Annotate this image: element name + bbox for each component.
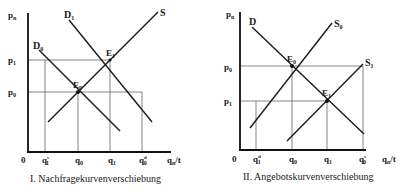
quantity-tick-q1: q1: [324, 154, 332, 165]
guide-lines: [240, 66, 363, 150]
supply-curve-s1: [287, 64, 363, 141]
axes: [27, 13, 171, 152]
price-tick-p0: p0: [224, 62, 232, 73]
curve-label-d1: D1: [64, 9, 74, 21]
price-tick-p1: p1: [8, 55, 16, 66]
price-tick-p0: p0: [8, 87, 16, 98]
equilibrium-label-e0: E0: [73, 80, 82, 91]
equilibrium-label-e0: E0: [287, 54, 296, 65]
caption-demand-shift: I. Nachfragekurvenverschiebung: [30, 173, 161, 184]
supply-demand-figure: pn p1 p0 D0 D1 S E0 E1 0 qs1 q0 q1 qd0 q…: [0, 0, 409, 192]
y-axis-label: pn: [226, 9, 235, 20]
supply-curve-s0: [250, 23, 332, 128]
equilibrium-point-e1: [325, 99, 329, 103]
quantity-tick-q0s: qs0: [359, 154, 366, 165]
quantity-tick-q1d: qd1: [253, 154, 261, 165]
curves: [250, 23, 364, 141]
quantity-tick-q0: q0: [75, 155, 83, 166]
quantity-tick-q0d: qd0: [139, 155, 147, 166]
quantity-tick-q0: q0: [289, 154, 297, 165]
equilibrium-label-e1: E1: [322, 88, 331, 99]
y-axis-label: pn: [8, 10, 17, 21]
curves: [39, 12, 158, 131]
demand-curve-d1: [69, 20, 152, 122]
quantity-tick-q1s: qs1: [42, 155, 49, 166]
guide-lines: [28, 60, 142, 152]
x-axis-label: qn/t: [382, 154, 396, 165]
origin-label: 0: [232, 154, 237, 164]
curve-label-s1: S1: [365, 57, 374, 69]
supply-curve-s: [48, 12, 158, 122]
curve-label-d0: D0: [33, 40, 43, 52]
diagram-demand-shift: pn p1 p0 D0 D1 S E0 E1 0 qs1 q0 q1 qd0 q…: [8, 7, 181, 184]
quantity-tick-q1: q1: [108, 155, 116, 166]
x-axis-label: qn/t: [167, 155, 181, 166]
caption-supply-shift: II. Angebotskurvenverschiebung: [243, 171, 374, 182]
diagram-supply-shift: pn p0 p1 D S0 S1 E0 E1 0 qd1 q0 q1 qs0 q…: [224, 9, 396, 182]
equilibrium-label-e1: E1: [106, 48, 115, 59]
curve-label-d: D: [249, 16, 256, 27]
curve-label-s: S: [160, 7, 166, 18]
origin-label: 0: [21, 155, 26, 165]
price-tick-p1: p1: [224, 96, 232, 107]
curve-label-s0: S0: [334, 18, 343, 30]
